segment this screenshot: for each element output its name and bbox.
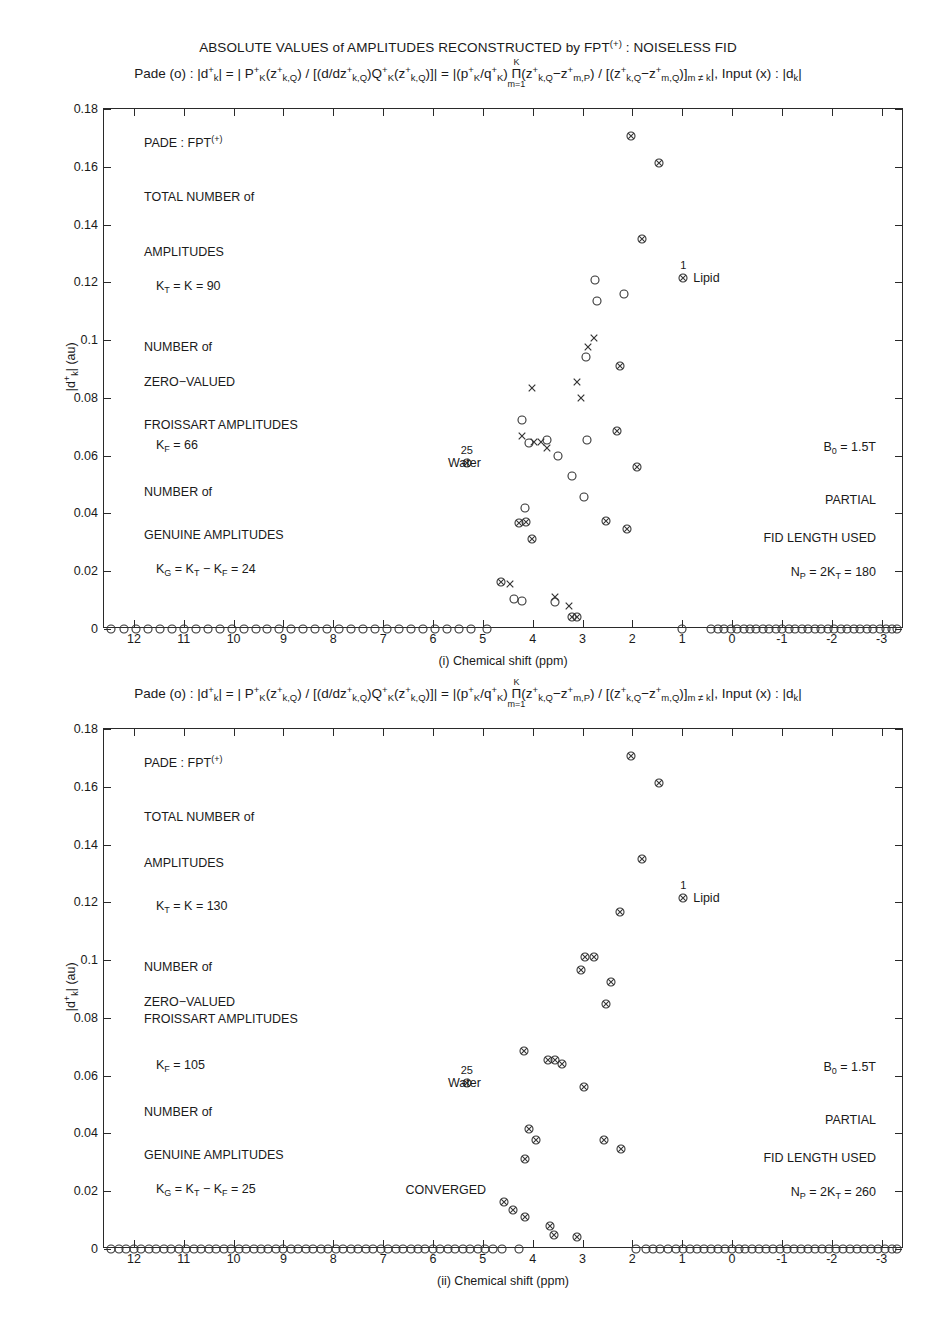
x-axis-tick bbox=[134, 1240, 135, 1247]
x-axis-tick bbox=[682, 1240, 683, 1247]
zero-line-marker bbox=[398, 1244, 409, 1255]
zero-line-marker bbox=[394, 624, 405, 635]
y-axis-tick bbox=[895, 456, 902, 457]
x-axis-tick-label: 4 bbox=[529, 1252, 536, 1266]
lipid-peak-label: Lipid bbox=[693, 271, 719, 285]
x-axis-tick-label: -3 bbox=[876, 1252, 887, 1266]
zero-line-marker bbox=[142, 624, 153, 635]
panel-2-note-right-2: FID LENGTH USED bbox=[763, 1151, 876, 1165]
panel-1-note-left-9: GENUINE AMPLITUDES bbox=[144, 528, 284, 542]
y-axis-tick bbox=[104, 902, 111, 903]
zero-line-marker bbox=[346, 624, 357, 635]
x-axis-tick bbox=[234, 620, 235, 627]
panel-1-y-axis-title: |d+k| (au) bbox=[62, 307, 80, 427]
data-point-circle-x bbox=[654, 778, 665, 789]
x-axis-tick-label: 7 bbox=[380, 632, 387, 646]
y-axis-tick bbox=[895, 282, 902, 283]
x-axis-tick bbox=[134, 109, 135, 116]
y-axis-tick bbox=[895, 1191, 902, 1192]
data-point-open-circle bbox=[592, 295, 603, 306]
zero-line-marker bbox=[256, 1244, 267, 1255]
x-axis-tick-label: 10 bbox=[227, 1252, 241, 1266]
x-axis-tick bbox=[483, 109, 484, 116]
panel-2-plot-area: 0.180.160.140.120.10.080.060.040.0201211… bbox=[104, 729, 902, 1247]
y-axis-tick bbox=[104, 282, 111, 283]
y-axis-tick bbox=[104, 513, 111, 514]
x-axis-tick bbox=[732, 620, 733, 627]
panel-2-note-left-1: TOTAL NUMBER of bbox=[144, 810, 254, 824]
data-point-circle-x bbox=[622, 524, 633, 535]
zero-line-marker bbox=[757, 624, 768, 635]
x-axis-tick-label: 12 bbox=[127, 1252, 141, 1266]
zero-line-marker bbox=[465, 1244, 476, 1255]
panel-2-note-left-7: KF = 105 bbox=[156, 1057, 205, 1073]
x-axis-tick bbox=[283, 1240, 284, 1247]
x-axis-tick bbox=[632, 620, 633, 627]
data-point-circle-x bbox=[519, 1153, 530, 1164]
zero-line-marker bbox=[855, 624, 866, 635]
zero-line-marker bbox=[151, 1244, 162, 1255]
zero-line-marker bbox=[405, 1244, 416, 1255]
zero-line-marker bbox=[810, 1244, 821, 1255]
y-axis-tick-label: 0.12 bbox=[74, 895, 98, 909]
x-axis-tick-label: 0 bbox=[729, 1252, 736, 1266]
x-axis-tick bbox=[533, 1240, 534, 1247]
y-axis-tick bbox=[895, 1018, 902, 1019]
y-axis-tick bbox=[104, 845, 111, 846]
x-axis-tick bbox=[383, 1240, 384, 1247]
data-point-x-cross bbox=[505, 579, 516, 590]
y-axis-tick-label: 0.18 bbox=[74, 102, 98, 116]
panel-1-note-left-4: NUMBER of bbox=[144, 340, 212, 354]
x-axis-tick-label: 9 bbox=[280, 632, 287, 646]
panel-2-note-left-5: ZERO−VALUED bbox=[144, 995, 235, 1009]
zero-line-marker bbox=[166, 624, 177, 635]
y-axis-tick-label: 0.06 bbox=[74, 449, 98, 463]
x-axis-tick bbox=[433, 729, 434, 736]
zero-line-marker bbox=[250, 624, 261, 635]
water-peak-number: 25 bbox=[461, 444, 473, 456]
zero-line-marker bbox=[751, 624, 762, 635]
data-point-circle-x bbox=[598, 1134, 609, 1145]
zero-line-marker bbox=[196, 1244, 207, 1255]
y-axis-tick bbox=[104, 729, 111, 730]
y-axis-tick-label: 0.02 bbox=[74, 1184, 98, 1198]
data-point-circle-x bbox=[632, 461, 643, 472]
panel-2-frame: 0.180.160.140.120.10.080.060.040.0201211… bbox=[103, 728, 903, 1248]
x-axis-tick bbox=[283, 729, 284, 736]
data-point-open-circle bbox=[517, 595, 528, 606]
zero-line-marker bbox=[441, 624, 452, 635]
data-point-circle-x bbox=[526, 533, 537, 544]
water-peak-number: 25 bbox=[461, 1064, 473, 1076]
y-axis-tick-label: 0.04 bbox=[74, 506, 98, 520]
x-axis-tick bbox=[184, 620, 185, 627]
data-point-x-cross bbox=[575, 392, 586, 403]
data-point-circle-x bbox=[575, 965, 586, 976]
data-point-circle-x bbox=[637, 234, 648, 245]
zero-line-marker bbox=[360, 1244, 371, 1255]
x-axis-tick-label: 3 bbox=[579, 632, 586, 646]
zero-line-marker bbox=[435, 1244, 446, 1255]
y-title-part-a: |d bbox=[64, 381, 78, 391]
data-point-open-circle bbox=[516, 414, 527, 425]
zero-line-marker bbox=[453, 624, 464, 635]
panel-2-note-left-8: NUMBER of bbox=[144, 1105, 212, 1119]
zero-line-marker bbox=[465, 624, 476, 635]
panel-1-noiseless-fid: 0.180.160.140.120.10.080.060.040.0201211… bbox=[103, 108, 903, 628]
zero-line-marker bbox=[293, 1244, 304, 1255]
x-axis-tick bbox=[433, 1240, 434, 1247]
x-axis-tick bbox=[533, 620, 534, 627]
data-point-x-cross bbox=[526, 382, 537, 393]
zero-line-marker bbox=[740, 1244, 751, 1255]
zero-line-marker bbox=[413, 1244, 424, 1255]
zero-line-marker bbox=[353, 1244, 364, 1255]
panel-1-note-right-2: FID LENGTH USED bbox=[763, 531, 876, 545]
zero-line-marker-mid bbox=[571, 611, 582, 622]
x-axis-tick bbox=[782, 729, 783, 736]
y-axis-tick bbox=[104, 109, 111, 110]
zero-line-marker bbox=[202, 624, 213, 635]
y-title-part-b: | (au) bbox=[64, 962, 78, 991]
zero-line-marker bbox=[300, 1244, 311, 1255]
panel-2-converged-note: CONVERGED bbox=[406, 1183, 487, 1197]
data-point-circle-x bbox=[611, 426, 622, 437]
zero-line-marker bbox=[190, 624, 201, 635]
